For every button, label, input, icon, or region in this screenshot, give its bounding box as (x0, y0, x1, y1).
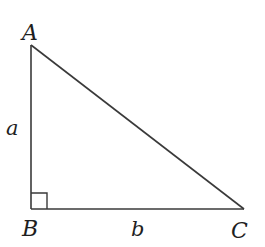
side-label-b: b (131, 217, 144, 241)
side-label-a: a (6, 116, 19, 140)
vertex-label-a: A (20, 20, 38, 45)
right-angle-marker (31, 193, 47, 209)
right-triangle-diagram: A B C a b (0, 0, 265, 247)
vertex-label-b: B (21, 216, 38, 241)
vertex-label-c: C (231, 218, 248, 243)
side-ac-hypotenuse (31, 45, 244, 209)
